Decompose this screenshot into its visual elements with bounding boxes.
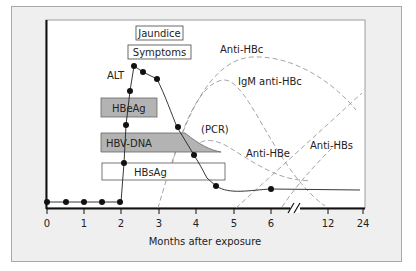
x-axis-label: Months after exposure [149, 236, 262, 247]
tick-label: 0 [44, 218, 50, 229]
chart-canvas: 0 1 2 3 4 5 6 12 24 Months after exposur… [0, 0, 416, 271]
tick-label: 12 [322, 218, 335, 229]
tick-label: 1 [81, 218, 87, 229]
pcr-label: (PCR) [201, 124, 229, 135]
hbeag-label: HBeAg [112, 103, 146, 114]
alt-label: ALT [107, 70, 125, 81]
tick-label: 6 [268, 218, 274, 229]
jaundice-label: Jaundice [137, 28, 181, 39]
tick-label: 5 [231, 218, 237, 229]
anti-hbe-label: Anti-HBe [246, 148, 290, 159]
tick-label: 24 [357, 218, 370, 229]
anti-hbs-label: Anti-HBs [310, 140, 353, 151]
igm-anti-hbc-label: IgM anti-HBc [238, 76, 302, 87]
tick-label: 4 [193, 218, 199, 229]
tick-label: 2 [118, 218, 124, 229]
symptoms-label: Symptoms [133, 47, 186, 58]
hbv-dna-label: HBV-DNA [106, 138, 152, 149]
anti-hbc-label: Anti-HBc [220, 44, 263, 55]
tick-label: 3 [156, 218, 162, 229]
hbsag-label: HBsAg [134, 167, 167, 178]
